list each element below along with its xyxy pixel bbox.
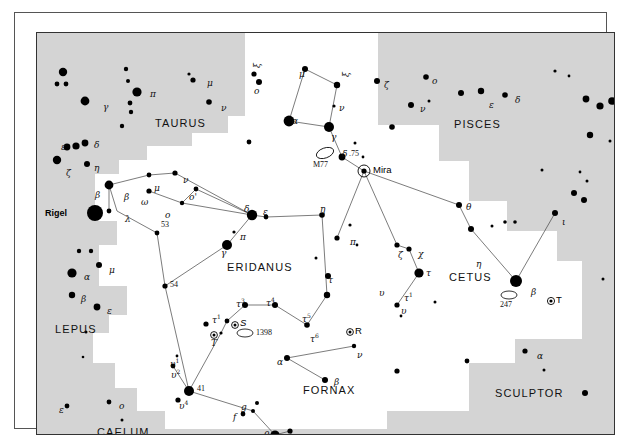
star-letter-label: ξ: [342, 72, 351, 77]
greek-star-label: π: [150, 90, 156, 99]
greek-star-label: β: [531, 288, 536, 297]
greek-star-label: μ: [109, 266, 115, 275]
greek-star-label: χ: [418, 250, 423, 259]
greek-star-label: ε: [489, 101, 494, 110]
greek-star-label: υ: [401, 307, 406, 316]
deepsky-layer: [37, 33, 615, 435]
constellation-label-lepus: LEPUS: [55, 323, 97, 335]
constellation-label-cetus: CETUS: [449, 271, 492, 283]
star-label-54: 54: [170, 281, 178, 289]
greek-star-label: δ: [342, 150, 347, 159]
greek-star-label: θ: [466, 203, 471, 212]
greek-star-label: ο: [432, 77, 437, 86]
greek-star-label: ν: [183, 176, 188, 185]
greek-star-label: λ: [125, 215, 131, 224]
greek-star-label: β: [124, 193, 129, 202]
variable-star-t-cetus: [547, 297, 554, 304]
greek-star-label: ζ: [66, 169, 71, 178]
greek-star-label: η: [320, 205, 325, 214]
greek-star-label: ω: [141, 198, 148, 207]
magnitude-label-75: .75: [349, 150, 359, 158]
galaxy-ngc247: [501, 291, 517, 299]
greek-star-label: δ: [94, 141, 99, 150]
greek-star-label: μ: [299, 70, 305, 79]
variable-label-t-eridanus: T: [211, 339, 217, 348]
greek-star-label: γ: [103, 103, 108, 112]
variable-star-s: [232, 322, 239, 329]
greek-star-label: β: [95, 191, 100, 200]
greek-star-label-superscript: τ3: [236, 298, 245, 309]
greek-star-label: γ: [331, 133, 336, 142]
greek-star-label-superscript: τ1: [404, 292, 413, 303]
greek-star-label: η: [476, 260, 481, 269]
constellation-label-sculptor: SCULPTOR: [495, 387, 564, 399]
galaxy-ngc1398: [237, 329, 253, 337]
greek-star-label-superscript: τ4: [266, 297, 275, 308]
chart-outer-frame: TAURUS PISCES ERIDANUS CETUS LEPUS FORNA…: [14, 12, 607, 429]
variable-label-r: R: [355, 325, 362, 336]
constellation-label-caelum: CAELUM: [97, 426, 149, 435]
greek-star-label: τ: [426, 269, 431, 278]
greek-star-label: ο': [189, 193, 197, 202]
greek-star-label-superscript: τ5: [302, 313, 311, 324]
greek-star-label: δ: [515, 96, 520, 105]
greek-star-label: μ: [207, 79, 213, 88]
greek-star-label: α: [84, 273, 90, 282]
greek-star-label: ζ: [384, 81, 389, 90]
star-letter-label: f: [233, 413, 236, 422]
greek-star-label-superscript: τ1: [212, 314, 221, 325]
greek-star-label: δ: [244, 205, 249, 214]
greek-star-label: ο: [165, 211, 170, 220]
greek-star-label: τ: [328, 276, 333, 285]
greek-star-label: γ: [221, 249, 226, 258]
star-label-mira: Mira: [373, 164, 391, 175]
greek-star-label: ο: [119, 402, 124, 411]
greek-star-label-superscript: υ4: [179, 400, 188, 411]
star-label-rigel: Rigel: [45, 208, 67, 218]
star-label-53: 53: [161, 221, 169, 229]
constellation-label-fornax: FORNAX: [303, 384, 355, 396]
variable-star-mira: [358, 165, 370, 177]
greek-star-label: π: [350, 238, 356, 247]
sky-area: TAURUS PISCES ERIDANUS CETUS LEPUS FORNA…: [37, 33, 614, 434]
greek-star-label: ε: [107, 307, 112, 316]
greek-star-label: ν: [221, 104, 226, 113]
constellation-label-pisces: PISCES: [454, 118, 501, 130]
object-label-ngc1398: 1398: [256, 329, 272, 337]
greek-star-label: ν: [357, 351, 362, 360]
chart-inner-frame: TAURUS PISCES ERIDANUS CETUS LEPUS FORNA…: [36, 32, 615, 435]
star-letter-label: ξ: [253, 63, 262, 68]
greek-star-label: β: [334, 378, 339, 387]
object-label-ngc247: 247: [500, 301, 512, 309]
greek-star-label: η: [94, 164, 99, 173]
star-letter-label: ο: [254, 87, 259, 96]
constellation-label-taurus: TAURUS: [155, 117, 206, 129]
greek-star-label: π: [240, 233, 246, 242]
galaxy-m77: [315, 145, 335, 161]
greek-star-label: υ: [379, 289, 384, 298]
star-label-41: 41: [197, 385, 205, 393]
greek-star-label: β: [81, 295, 86, 304]
greek-star-label: ι: [562, 218, 566, 227]
greek-star-label: θ: [264, 431, 269, 435]
greek-star-label-superscript: τ6: [310, 333, 319, 344]
greek-star-label: α: [537, 352, 543, 361]
greek-star-label: ζ: [398, 251, 403, 260]
constellation-label-eridanus: ERIDANUS: [227, 261, 293, 273]
greek-star-label: ν: [420, 105, 425, 114]
greek-star-label: ε: [61, 143, 66, 152]
variable-label-s: S: [240, 317, 246, 328]
greek-star-label: ε: [59, 406, 64, 415]
greek-star-label: ν: [339, 104, 344, 113]
greek-star-label: μ: [154, 184, 160, 193]
greek-star-label: α: [292, 117, 298, 126]
greek-star-label: α: [277, 358, 283, 367]
variable-label-t-cetus: T: [556, 294, 562, 305]
variable-star-r: [347, 329, 354, 336]
greek-star-label-superscript: υ2: [171, 369, 180, 380]
star-letter-label: g: [241, 403, 247, 412]
star-chart-root: TAURUS PISCES ERIDANUS CETUS LEPUS FORNA…: [0, 0, 621, 448]
object-label-m77: M77: [313, 161, 328, 169]
greek-star-label: ε: [263, 208, 268, 217]
